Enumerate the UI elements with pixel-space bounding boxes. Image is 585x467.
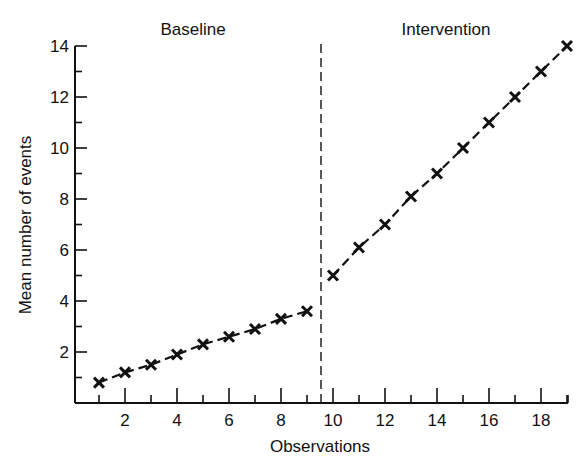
series-intervention [328, 41, 572, 281]
y-tick-label: 2 [60, 343, 69, 362]
x-marker-icon [536, 67, 546, 77]
x-marker-icon [146, 360, 156, 370]
phase-label-intervention: Intervention [402, 20, 491, 39]
series-layer [94, 41, 572, 388]
x-tick-label: 18 [532, 411, 551, 430]
x-marker-icon [406, 191, 416, 201]
y-tick-label: 10 [50, 139, 69, 158]
x-marker-icon [432, 169, 442, 179]
x-marker-icon [94, 378, 104, 388]
x-tick-label: 8 [276, 411, 285, 430]
x-marker-icon [172, 350, 182, 360]
x-marker-icon [458, 143, 468, 153]
phase-label-baseline: Baseline [160, 20, 225, 39]
y-tick-label: 8 [60, 190, 69, 209]
x-tick-label: 4 [172, 411, 181, 430]
x-marker-icon [510, 92, 520, 102]
x-axis-label: Observations [270, 437, 370, 456]
line-chart: 246810121424681012141618 Baseline Interv… [0, 0, 585, 467]
x-marker-icon [562, 41, 572, 51]
x-tick-label: 16 [480, 411, 499, 430]
y-tick-label: 14 [50, 37, 69, 56]
x-tick-label: 6 [224, 411, 233, 430]
series-line [333, 46, 567, 276]
y-tick-label: 12 [50, 88, 69, 107]
x-marker-icon [328, 271, 338, 281]
x-tick-label: 12 [376, 411, 395, 430]
x-tick-label: 10 [324, 411, 343, 430]
y-axis-label: Mean number of events [16, 136, 35, 315]
series-baseline [94, 306, 312, 387]
y-tick-label: 6 [60, 241, 69, 260]
series-line [99, 311, 307, 382]
x-marker-icon [354, 242, 364, 252]
x-marker-icon [380, 220, 390, 230]
x-tick-label: 14 [428, 411, 447, 430]
y-tick-label: 4 [60, 292, 69, 311]
x-tick-label: 2 [120, 411, 129, 430]
x-marker-icon [484, 118, 494, 128]
